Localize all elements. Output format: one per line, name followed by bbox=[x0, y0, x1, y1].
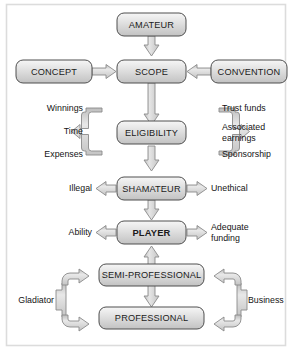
node-box-professional[interactable] bbox=[99, 307, 204, 329]
diagram-graphics bbox=[0, 0, 302, 359]
node-box-shamateur[interactable] bbox=[117, 177, 186, 200]
node-box-convention[interactable] bbox=[211, 60, 287, 83]
node-box-eligibility[interactable] bbox=[117, 121, 186, 144]
node-box-player[interactable] bbox=[117, 221, 186, 244]
node-box-semiprofessional[interactable] bbox=[99, 264, 204, 286]
node-box-amateur[interactable] bbox=[117, 13, 186, 36]
node-box-concept[interactable] bbox=[16, 60, 92, 83]
diagram-canvas: AMATEUR CONCEPT SCOPE CONVENTION ELIGIBI… bbox=[0, 0, 302, 359]
node-box-scope[interactable] bbox=[117, 60, 186, 83]
